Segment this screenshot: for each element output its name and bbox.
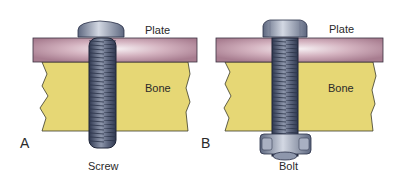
bone-label-a: Bone [145,82,171,94]
plate-label-b: Plate [329,23,354,35]
fastener-label-a: Screw [88,160,119,172]
bone-b [224,62,376,131]
plate-b [216,38,383,62]
panel-label-b: B [201,135,210,151]
bone-label-b: Bone [328,82,354,94]
plate-label-a: Plate [145,24,170,36]
panel-a [33,21,197,148]
fastener-label-b: Bolt [279,160,298,172]
panel-b [216,20,383,160]
panel-label-a: A [20,135,29,151]
